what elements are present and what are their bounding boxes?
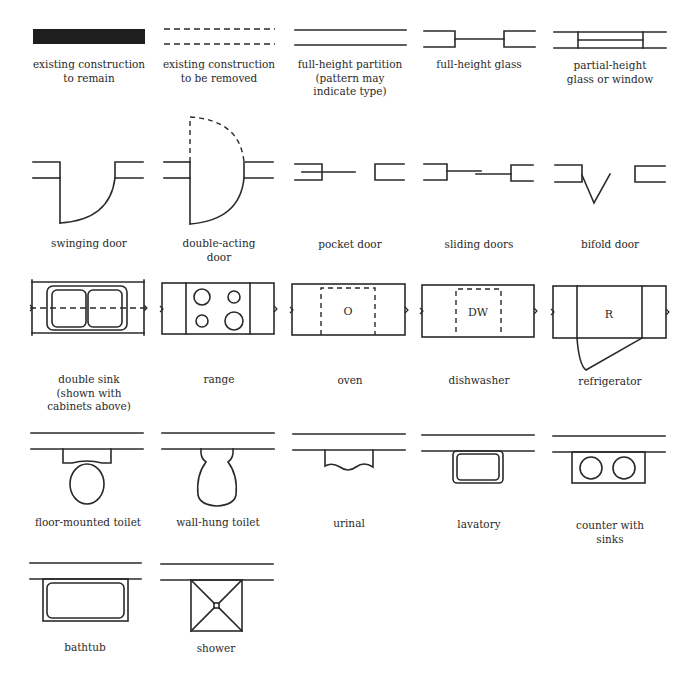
shower-slope — [219, 580, 242, 603]
wall-end-right — [115, 162, 143, 178]
label-full-height-glass: full-height glass — [414, 58, 544, 72]
sink-basin — [580, 457, 602, 479]
wall-end-right — [244, 162, 273, 178]
symbol-pocket-door — [295, 164, 404, 180]
symbol-bifold-door — [555, 165, 665, 203]
symbol-refrigerator: R — [553, 286, 666, 370]
door-swing-arc — [60, 178, 115, 223]
wall-end-left — [424, 31, 455, 47]
label-existing-construction-to-be-removed: existing constructionto be removed — [154, 58, 284, 85]
label-wall-hung-toilet: wall-hung toilet — [153, 516, 283, 530]
counter-outline — [572, 452, 645, 483]
burner-large — [194, 289, 210, 305]
tub-basin — [47, 583, 124, 618]
lavatory-outer — [453, 451, 503, 483]
symbol-partial-height-glass — [554, 32, 666, 48]
sink-basin — [613, 457, 635, 479]
counter-outline — [162, 283, 274, 334]
door-swing-arc-dashed — [190, 117, 244, 162]
tub-outer — [43, 579, 128, 621]
symbol-wall-hung-toilet — [162, 433, 274, 506]
toilet-bowl — [70, 464, 104, 504]
label-counter-with-sinks: counter withsinks — [545, 519, 675, 546]
wall-end-right — [635, 166, 665, 182]
symbol-shower — [161, 564, 273, 631]
symbol-oven: O — [292, 284, 405, 335]
solid-wall-bar — [33, 29, 145, 44]
bifold-leaves — [582, 174, 610, 203]
label-swinging-door: swinging door — [24, 237, 154, 251]
symbol-full-height-glass — [424, 31, 535, 47]
symbol-bathtub — [30, 563, 141, 621]
urinal-bowl — [325, 450, 373, 470]
toilet-tank — [63, 449, 111, 463]
symbol-existing-construction-to-remain — [33, 29, 145, 44]
label-range: range — [154, 373, 284, 387]
symbol-urinal — [293, 434, 405, 470]
label-shower: shower — [151, 642, 281, 656]
wall-end-right — [375, 164, 404, 180]
symbol-counter-with-sinks — [553, 436, 665, 483]
refrigerator-door-swing — [577, 338, 642, 370]
symbol-sliding-doors — [424, 164, 533, 181]
label-double-sink: double sink(shown withcabinets above) — [24, 373, 154, 414]
label-existing-construction-to-remain: existing constructionto remain — [24, 58, 154, 85]
door-swing-arc — [190, 178, 244, 224]
label-urinal: urinal — [284, 517, 414, 531]
label-refrigerator: refrigerator — [545, 375, 675, 389]
label-bifold-door: bifold door — [545, 238, 675, 252]
label-sliding-doors: sliding doors — [414, 238, 544, 252]
symbol-lavatory — [422, 435, 534, 483]
symbol-dishwasher: DW — [422, 285, 534, 337]
symbol-double-acting-door — [164, 117, 273, 224]
dishwasher-mark: DW — [468, 306, 489, 319]
symbol-sheet: O DW R — [0, 0, 689, 680]
burner-small — [228, 291, 240, 303]
wall-end-right — [511, 165, 533, 181]
label-pocket-door: pocket door — [285, 238, 415, 252]
label-bathtub: bathtub — [20, 641, 150, 655]
shower-slope — [191, 608, 214, 631]
shower-slope — [191, 580, 214, 603]
symbol-range — [162, 283, 274, 334]
lavatory-basin — [457, 454, 499, 480]
wall-end-right — [504, 31, 535, 47]
burner-small — [196, 315, 208, 327]
symbol-swinging-door — [33, 162, 143, 223]
shower-slope — [219, 608, 242, 631]
label-oven: oven — [285, 374, 415, 388]
wall-end-left — [555, 165, 582, 182]
label-lavatory: lavatory — [414, 518, 544, 532]
label-dishwasher: dishwasher — [414, 374, 544, 388]
symbol-existing-construction-to-be-removed — [164, 29, 275, 44]
oven-mark: O — [343, 305, 352, 318]
wall-end-left — [424, 164, 447, 180]
label-floor-mounted-toilet: floor-mounted toilet — [23, 516, 153, 530]
symbol-floor-mounted-toilet — [31, 433, 143, 504]
wall-end-left — [33, 162, 60, 223]
toilet-bowl — [198, 449, 237, 506]
burner-large — [225, 312, 243, 330]
symbol-double-sink — [30, 280, 146, 335]
label-double-acting-door: double-actingdoor — [154, 237, 284, 264]
label-full-height-partition: full-height partition(pattern mayindicat… — [285, 58, 415, 99]
refrigerator-mark: R — [605, 308, 614, 321]
drain-icon — [214, 603, 219, 608]
label-partial-height-glass-or-window: partial-heightglass or window — [545, 59, 675, 86]
symbol-full-height-partition — [295, 30, 406, 45]
